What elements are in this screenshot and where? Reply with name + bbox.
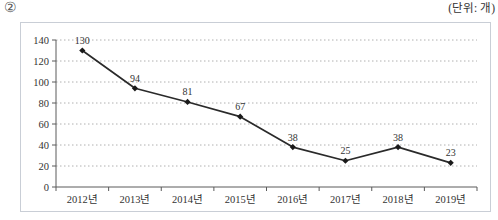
- data-point-label: 25: [340, 145, 350, 156]
- y-tick-label: 60: [39, 119, 50, 130]
- data-point-label: 81: [183, 86, 193, 97]
- y-tick-label: 20: [39, 161, 50, 172]
- y-tick-label: 120: [33, 56, 49, 67]
- unit-label: (단위: 개): [448, 2, 495, 16]
- item-number-label: ②: [4, 1, 17, 15]
- line-chart: 0204060801001201402012년2013년2014년2015년20…: [21, 23, 488, 209]
- x-tick-label: 2019년: [435, 194, 466, 205]
- chart-panel: 0204060801001201402012년2013년2014년2015년20…: [20, 22, 491, 212]
- data-point-label: 38: [288, 132, 298, 143]
- data-line: [82, 51, 450, 163]
- data-point-marker: [184, 99, 190, 105]
- x-tick-label: 2018년: [383, 194, 414, 205]
- y-tick-label: 80: [39, 98, 50, 109]
- data-point-label: 130: [75, 35, 90, 46]
- data-point-label: 94: [130, 73, 140, 84]
- data-point-marker: [448, 160, 454, 166]
- x-tick-label: 2012년: [67, 194, 98, 205]
- y-tick-label: 40: [39, 140, 50, 151]
- x-tick-label: 2013년: [119, 194, 150, 205]
- data-point-label: 23: [446, 147, 456, 158]
- x-tick-label: 2014년: [172, 194, 203, 205]
- data-point-label: 67: [235, 101, 245, 112]
- y-tick-label: 0: [44, 182, 49, 193]
- worksheet-page: ② (단위: 개) 0204060801001201402012년2013년20…: [0, 0, 498, 220]
- data-point-label: 38: [393, 132, 403, 143]
- y-tick-label: 140: [33, 35, 49, 46]
- y-tick-label: 100: [33, 77, 49, 88]
- x-tick-label: 2017년: [330, 194, 361, 205]
- x-tick-label: 2016년: [277, 194, 308, 205]
- data-point-marker: [342, 158, 348, 164]
- x-tick-label: 2015년: [225, 194, 256, 205]
